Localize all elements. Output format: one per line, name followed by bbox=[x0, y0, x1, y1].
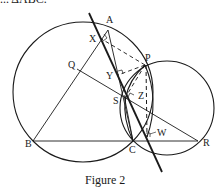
label-b: B bbox=[25, 138, 32, 149]
label-a: A bbox=[106, 14, 114, 25]
right-angle-x bbox=[103, 34, 107, 41]
dashed-pw bbox=[146, 65, 147, 137]
label-c: C bbox=[129, 144, 136, 155]
label-x: X bbox=[89, 33, 97, 44]
right-angle-z bbox=[128, 93, 134, 97]
label-r: R bbox=[203, 137, 210, 148]
label-p: P bbox=[145, 52, 151, 63]
figure-canvas: A X P Q Y S Z B C W R Figure 2 bbox=[0, 0, 223, 188]
figure-caption: Figure 2 bbox=[85, 173, 125, 187]
label-q: Q bbox=[68, 59, 76, 70]
side-ab bbox=[33, 30, 108, 141]
label-y: Y bbox=[106, 70, 113, 81]
geometry-figure: A X P Q Y S Z B C W R Figure 2 bbox=[0, 0, 223, 188]
label-w: W bbox=[157, 127, 167, 138]
label-z: Z bbox=[138, 90, 144, 101]
leader-w bbox=[150, 132, 156, 134]
label-s: S bbox=[113, 95, 119, 106]
line-qr bbox=[77, 69, 198, 141]
